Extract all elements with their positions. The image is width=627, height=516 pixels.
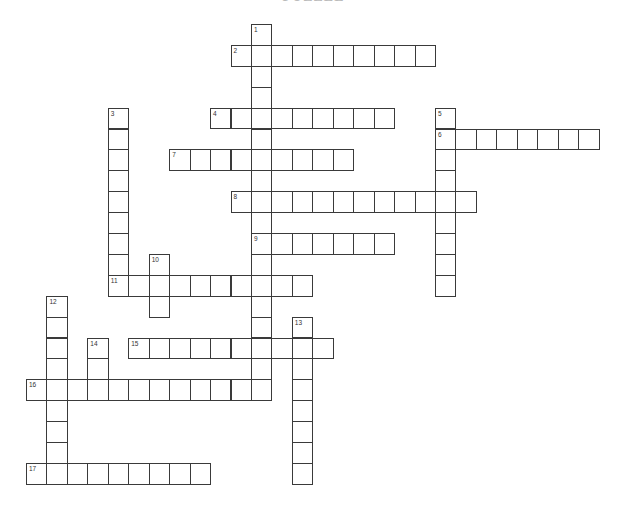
crossword-cell[interactable]: 11: [108, 275, 129, 297]
crossword-cell[interactable]: [128, 463, 149, 485]
crossword-cell[interactable]: [128, 275, 149, 297]
crossword-cell[interactable]: [292, 400, 313, 422]
crossword-cell[interactable]: [333, 191, 354, 213]
crossword-cell[interactable]: [374, 191, 395, 213]
crossword-cell[interactable]: 7: [169, 149, 190, 171]
crossword-cell[interactable]: [149, 379, 170, 401]
crossword-cell[interactable]: [231, 338, 252, 360]
crossword-cell[interactable]: [251, 170, 272, 192]
crossword-cell[interactable]: [578, 129, 599, 151]
crossword-cell[interactable]: [108, 463, 129, 485]
crossword-cell[interactable]: [558, 129, 579, 151]
crossword-cell[interactable]: 9: [251, 233, 272, 255]
crossword-cell[interactable]: [67, 463, 88, 485]
crossword-cell[interactable]: [333, 233, 354, 255]
crossword-cell[interactable]: [169, 379, 190, 401]
crossword-cell[interactable]: [231, 108, 252, 130]
crossword-cell[interactable]: 12: [46, 296, 67, 318]
crossword-cell[interactable]: [292, 442, 313, 464]
crossword-cell[interactable]: [292, 191, 313, 213]
crossword-cell[interactable]: [455, 191, 476, 213]
crossword-cell[interactable]: [374, 233, 395, 255]
crossword-cell[interactable]: [169, 275, 190, 297]
crossword-cell[interactable]: [271, 338, 292, 360]
crossword-cell[interactable]: 16: [26, 379, 47, 401]
crossword-cell[interactable]: [312, 338, 333, 360]
crossword-cell[interactable]: [292, 358, 313, 380]
crossword-cell[interactable]: [87, 379, 108, 401]
crossword-cell[interactable]: 13: [292, 317, 313, 339]
crossword-cell[interactable]: [251, 254, 272, 276]
crossword-cell[interactable]: [251, 275, 272, 297]
crossword-cell[interactable]: [108, 129, 129, 151]
crossword-cell[interactable]: [251, 45, 272, 67]
crossword-cell[interactable]: [149, 463, 170, 485]
crossword-cell[interactable]: [333, 108, 354, 130]
crossword-cell[interactable]: 4: [210, 108, 231, 130]
crossword-cell[interactable]: [190, 275, 211, 297]
crossword-cell[interactable]: [312, 108, 333, 130]
crossword-cell[interactable]: [271, 108, 292, 130]
crossword-cell[interactable]: [271, 149, 292, 171]
crossword-cell[interactable]: [292, 338, 313, 360]
crossword-cell[interactable]: 15: [128, 338, 149, 360]
crossword-cell[interactable]: [251, 87, 272, 109]
crossword-cell[interactable]: [46, 317, 67, 339]
crossword-cell[interactable]: [496, 129, 517, 151]
crossword-cell[interactable]: [108, 149, 129, 171]
crossword-cell[interactable]: [374, 45, 395, 67]
crossword-cell[interactable]: [251, 191, 272, 213]
crossword-cell[interactable]: [231, 149, 252, 171]
crossword-cell[interactable]: [251, 212, 272, 234]
crossword-cell[interactable]: [271, 191, 292, 213]
crossword-cell[interactable]: 8: [231, 191, 252, 213]
crossword-cell[interactable]: [415, 45, 436, 67]
crossword-cell[interactable]: [251, 66, 272, 88]
crossword-cell[interactable]: [374, 108, 395, 130]
crossword-cell[interactable]: [271, 233, 292, 255]
crossword-cell[interactable]: [46, 421, 67, 443]
crossword-cell[interactable]: [435, 233, 456, 255]
crossword-cell[interactable]: [108, 254, 129, 276]
crossword-cell[interactable]: [231, 379, 252, 401]
crossword-cell[interactable]: [353, 45, 374, 67]
crossword-cell[interactable]: [537, 129, 558, 151]
crossword-cell[interactable]: [435, 149, 456, 171]
crossword-cell[interactable]: [292, 149, 313, 171]
crossword-cell[interactable]: 17: [26, 463, 47, 485]
crossword-cell[interactable]: [210, 275, 231, 297]
crossword-cell[interactable]: [435, 170, 456, 192]
crossword-cell[interactable]: 1: [251, 24, 272, 46]
crossword-cell[interactable]: [435, 275, 456, 297]
crossword-cell[interactable]: [292, 275, 313, 297]
crossword-cell[interactable]: [333, 45, 354, 67]
crossword-cell[interactable]: [292, 45, 313, 67]
crossword-cell[interactable]: [149, 338, 170, 360]
crossword-cell[interactable]: [476, 129, 497, 151]
crossword-cell[interactable]: [517, 129, 538, 151]
crossword-cell[interactable]: [251, 317, 272, 339]
crossword-cell[interactable]: [251, 358, 272, 380]
crossword-cell[interactable]: [435, 191, 456, 213]
crossword-cell[interactable]: [108, 233, 129, 255]
crossword-cell[interactable]: [190, 463, 211, 485]
crossword-cell[interactable]: 2: [231, 45, 252, 67]
crossword-cell[interactable]: [455, 129, 476, 151]
crossword-cell[interactable]: [271, 45, 292, 67]
crossword-cell[interactable]: [292, 463, 313, 485]
crossword-cell[interactable]: [149, 275, 170, 297]
crossword-cell[interactable]: [353, 191, 374, 213]
crossword-cell[interactable]: [46, 358, 67, 380]
crossword-cell[interactable]: [292, 379, 313, 401]
crossword-cell[interactable]: [312, 149, 333, 171]
crossword-cell[interactable]: [87, 463, 108, 485]
crossword-cell[interactable]: [292, 108, 313, 130]
crossword-cell[interactable]: [251, 338, 272, 360]
crossword-cell[interactable]: [210, 149, 231, 171]
crossword-cell[interactable]: [149, 296, 170, 318]
crossword-cell[interactable]: [108, 170, 129, 192]
crossword-cell[interactable]: [210, 338, 231, 360]
crossword-cell[interactable]: [251, 296, 272, 318]
crossword-cell[interactable]: [46, 338, 67, 360]
crossword-cell[interactable]: [251, 129, 272, 151]
